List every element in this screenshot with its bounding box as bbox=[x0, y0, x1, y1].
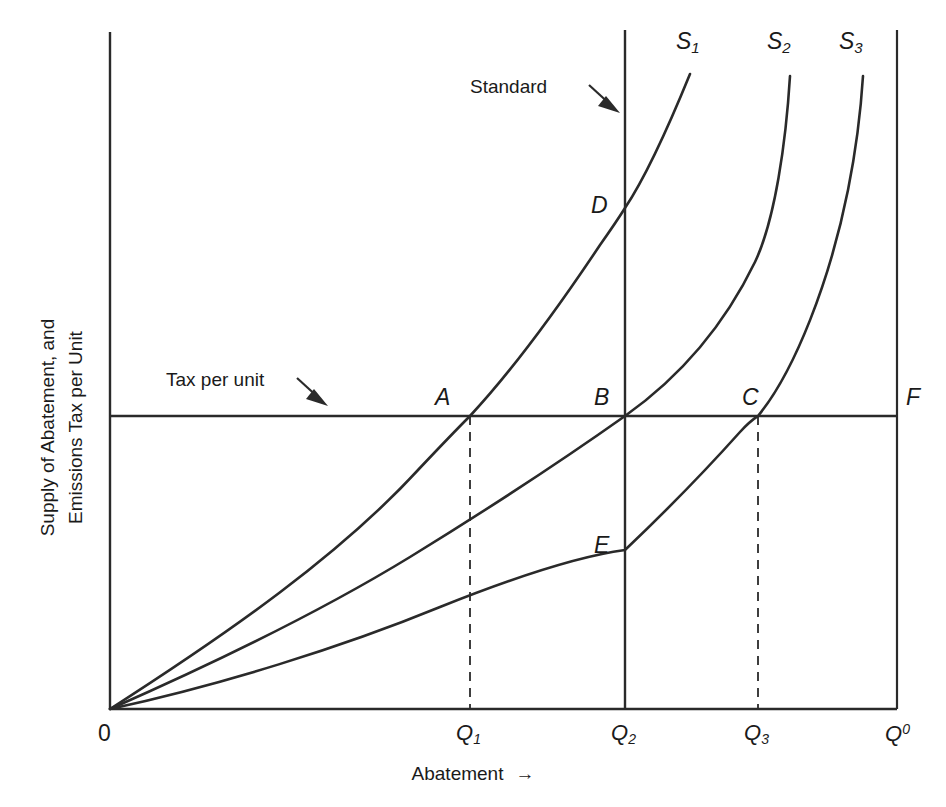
curve-label-s1-base: S bbox=[676, 28, 691, 54]
standard-annotation-label: Standard bbox=[470, 77, 547, 96]
curve-label-s3-base: S bbox=[839, 28, 854, 54]
y-axis-title-line2: Emissions Tax per Unit bbox=[62, 218, 90, 638]
point-label-d: D bbox=[591, 194, 608, 217]
x-tick-q1-sub: 1 bbox=[473, 731, 481, 747]
curve-label-s3: S3 bbox=[839, 30, 863, 55]
standard-annotation-arrow bbox=[589, 85, 620, 113]
point-label-e: E bbox=[594, 534, 609, 557]
point-label-b: B bbox=[594, 386, 609, 409]
x-tick-q1: Q1 bbox=[456, 722, 481, 746]
point-label-c: C bbox=[742, 386, 759, 409]
x-tick-q2-sub: 2 bbox=[628, 731, 636, 747]
x-tick-q3: Q3 bbox=[744, 722, 769, 746]
y-axis-title-line1: Supply of Abatement, and bbox=[34, 218, 62, 638]
x-tick-q3-sub: 3 bbox=[761, 731, 769, 747]
x-tick-q2-base: Q bbox=[611, 720, 628, 745]
tax-annotation-label: Tax per unit bbox=[166, 370, 264, 389]
abatement-supply-chart: Supply of Abatement, and Emissions Tax p… bbox=[0, 0, 946, 807]
x-axis-title-text: Abatement bbox=[412, 763, 504, 784]
point-label-f: F bbox=[906, 386, 920, 409]
x-tick-q0-base: Q bbox=[885, 721, 902, 746]
curve-label-s2-sub: 2 bbox=[782, 39, 790, 56]
x-tick-q0: Q0 bbox=[885, 722, 910, 745]
chart-canvas bbox=[0, 0, 946, 807]
x-tick-q1-base: Q bbox=[456, 720, 473, 745]
curve-label-s1: S1 bbox=[676, 30, 700, 55]
curve-label-s3-sub: 3 bbox=[854, 39, 862, 56]
x-axis-arrow-icon: → bbox=[515, 764, 534, 783]
curve-label-s2: S2 bbox=[767, 30, 791, 55]
curve-label-s2-base: S bbox=[767, 28, 782, 54]
y-axis-title: Supply of Abatement, and Emissions Tax p… bbox=[34, 218, 89, 638]
x-tick-q0-sup: 0 bbox=[902, 721, 910, 737]
x-tick-q3-base: Q bbox=[744, 720, 761, 745]
x-tick-origin: 0 bbox=[98, 722, 111, 745]
x-axis-title: Abatement→ bbox=[0, 764, 946, 783]
x-tick-q2: Q2 bbox=[611, 722, 636, 746]
point-label-a: A bbox=[435, 386, 450, 409]
tax-annotation-arrow bbox=[297, 378, 328, 406]
curve-label-s1-sub: 1 bbox=[691, 39, 699, 56]
